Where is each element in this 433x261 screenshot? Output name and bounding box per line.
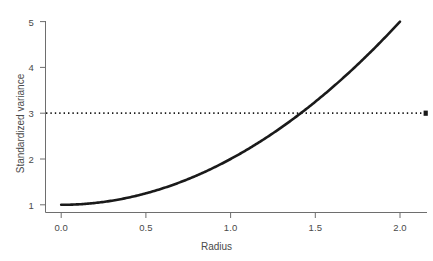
- y-tick-label-5: 5: [22, 16, 34, 27]
- y-tick-label-1: 1: [22, 199, 34, 210]
- x-tick-label-1: 0.5: [139, 222, 153, 233]
- x-axis-ticks: [61, 213, 400, 219]
- x-tick-label-4: 2.0: [393, 222, 407, 233]
- x-tick-label-3: 1.5: [309, 222, 323, 233]
- y-axis-ticks: [40, 22, 46, 205]
- y-axis-title: Standardized variance: [15, 54, 26, 194]
- reference-line-endpoint-marker: [424, 111, 428, 116]
- x-tick-label-0: 0.0: [54, 222, 68, 233]
- chart-figure: 5 4 3 2 1 0.0 0.5 1.0 1.5 2.0 Radius Sta…: [0, 0, 433, 261]
- x-axis-title: Radius: [0, 241, 433, 252]
- x-tick-label-2: 1.0: [224, 222, 238, 233]
